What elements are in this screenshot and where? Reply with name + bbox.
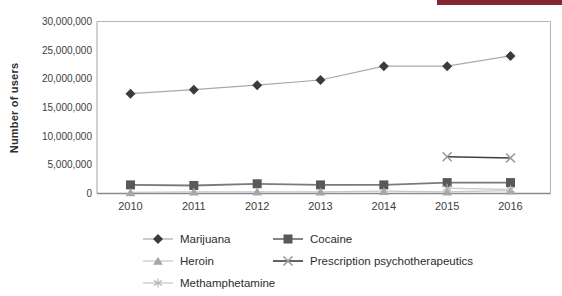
legend-column-1: MarijuanaHeroinMethamphetamine	[143, 228, 275, 294]
legend-item: Cocaine	[273, 228, 473, 250]
legend-label: Heroin	[180, 255, 214, 267]
diamond-marker-icon	[126, 89, 136, 99]
series-line	[131, 56, 511, 94]
legend-label: Marijuana	[180, 233, 231, 245]
legend-swatch	[143, 277, 173, 289]
square-marker-icon	[126, 180, 135, 189]
legend-label: Cocaine	[310, 233, 352, 245]
diamond-marker-icon	[506, 51, 516, 61]
legend-swatch	[143, 233, 173, 245]
legend-swatch	[273, 255, 303, 267]
legend-item: Marijuana	[143, 228, 275, 250]
series-line	[447, 188, 510, 189]
diamond-marker-icon	[153, 234, 163, 244]
diamond-marker-icon	[316, 75, 326, 85]
diamond-marker-icon	[252, 80, 262, 90]
legend-label: Methamphetamine	[180, 277, 275, 289]
diamond-marker-icon	[189, 85, 199, 95]
legend-column-2: CocainePrescription psychotherapeutics	[273, 228, 473, 272]
x-tick-label: 2016	[488, 200, 534, 212]
legend-item: Prescription psychotherapeutics	[273, 250, 473, 272]
square-marker-icon	[253, 179, 262, 188]
plot-border	[97, 22, 551, 194]
legend-item: Heroin	[143, 250, 275, 272]
x-tick-label: 2011	[171, 200, 217, 212]
x-tick-label: 2012	[234, 200, 280, 212]
figure-line-chart: Number of users 05,000,00010,000,00015,0…	[0, 0, 562, 296]
square-marker-icon	[284, 235, 293, 244]
legend-swatch	[143, 255, 173, 267]
chart-legend: MarijuanaHeroinMethamphetamine CocainePr…	[0, 228, 562, 296]
legend-label: Prescription psychotherapeutics	[310, 255, 473, 267]
x-tick-label: 2015	[424, 200, 470, 212]
x-tick-label: 2014	[361, 200, 407, 212]
legend-item: Methamphetamine	[143, 272, 275, 294]
diamond-marker-icon	[379, 61, 389, 71]
x-tick-label: 2010	[108, 200, 154, 212]
x-tick-label: 2013	[298, 200, 344, 212]
series-line	[447, 157, 510, 158]
diamond-marker-icon	[442, 61, 452, 71]
legend-swatch	[273, 233, 303, 245]
